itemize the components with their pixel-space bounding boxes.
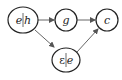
node-c[interactable]: c	[96, 9, 118, 31]
node-g[interactable]: g	[55, 9, 77, 31]
node-e-given-h-right-label: h	[24, 14, 31, 27]
node-g-label: g	[62, 14, 69, 27]
node-epsilon-given-e-right-label: e	[67, 54, 74, 67]
edge-epse-to-c	[77, 29, 98, 52]
node-e-given-h-left-label: e	[16, 14, 23, 27]
edge-eh-to-epse	[35, 30, 54, 47]
diagram-canvas: e h g c ε e	[0, 0, 122, 80]
node-epsilon-given-e-left-label: ε	[59, 54, 65, 67]
node-epsilon-given-e[interactable]: ε e	[52, 48, 80, 72]
node-e-given-h[interactable]: e h	[8, 7, 38, 33]
node-c-label: c	[104, 14, 110, 27]
